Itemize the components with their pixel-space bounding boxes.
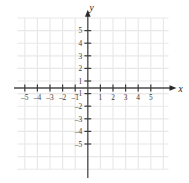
y-tick-label: 3 bbox=[78, 52, 82, 61]
x-tick-label: 5 bbox=[149, 93, 153, 102]
x-tick-label: 2 bbox=[111, 93, 115, 102]
y-tick-label: –5 bbox=[74, 140, 83, 149]
x-tick-label: 4 bbox=[136, 93, 140, 102]
x-tick-label: 1 bbox=[99, 93, 103, 102]
y-tick-label: 5 bbox=[78, 26, 82, 35]
coordinate-plane-figure: –5 –4 –3 –2 –1 1 2 3 4 5 5 4 3 2 1 –1 –2… bbox=[0, 0, 189, 183]
x-tick-label: –4 bbox=[33, 93, 42, 102]
y-tick-label: –4 bbox=[74, 127, 83, 136]
y-axis-label: y bbox=[88, 3, 94, 13]
x-tick-label: 3 bbox=[124, 93, 128, 102]
x-tick-label: –5 bbox=[20, 93, 29, 102]
y-tick-label: 4 bbox=[78, 39, 82, 48]
y-tick-label: 1 bbox=[78, 77, 82, 86]
y-tick-label: –2 bbox=[74, 102, 83, 111]
x-tick-label: –3 bbox=[45, 93, 54, 102]
y-tick-label: –1 bbox=[74, 89, 83, 98]
x-tick-label: –2 bbox=[58, 93, 67, 102]
y-tick-label: –3 bbox=[74, 115, 83, 124]
coordinate-plane-svg: –5 –4 –3 –2 –1 1 2 3 4 5 5 4 3 2 1 –1 –2… bbox=[0, 0, 189, 183]
figure-background bbox=[0, 0, 189, 183]
y-tick-label: 2 bbox=[78, 64, 82, 73]
x-axis-label: x bbox=[177, 84, 183, 94]
